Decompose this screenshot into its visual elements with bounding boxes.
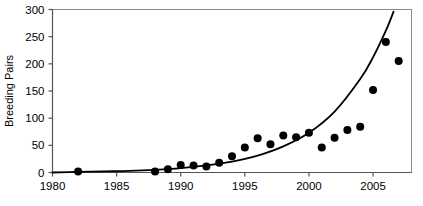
- y-axis-label: Breeding Pairs: [3, 54, 15, 127]
- data-point: [292, 133, 300, 141]
- data-point: [164, 165, 172, 173]
- chart-canvas: 198019851990199520002005 050100150200250…: [0, 0, 423, 206]
- scatter-points: [74, 38, 403, 175]
- data-point: [331, 134, 339, 142]
- data-point: [305, 129, 313, 137]
- fitted-curve: [53, 12, 394, 173]
- data-point: [266, 140, 274, 148]
- y-tick-label: 0: [38, 167, 44, 179]
- y-axis-tick-labels: 050100150200250300: [25, 4, 44, 179]
- data-point: [356, 123, 364, 131]
- y-tick-label: 200: [25, 58, 44, 70]
- x-tick-label: 1980: [40, 180, 66, 192]
- data-point: [202, 163, 210, 171]
- y-tick-label: 50: [32, 139, 45, 151]
- y-tick-label: 250: [25, 31, 44, 43]
- data-point: [190, 161, 198, 169]
- data-point: [177, 161, 185, 169]
- plot-frame: [53, 10, 412, 173]
- breeding-pairs-chart: 198019851990199520002005 050100150200250…: [0, 0, 423, 206]
- x-tick-label: 1995: [232, 180, 258, 192]
- data-point: [343, 126, 351, 134]
- y-tick-label: 150: [25, 85, 44, 97]
- data-point: [74, 167, 82, 175]
- x-tick-label: 1985: [104, 180, 130, 192]
- data-point: [318, 144, 326, 152]
- x-tick-label: 2000: [296, 180, 322, 192]
- y-tick-label: 100: [25, 112, 44, 124]
- data-point: [151, 167, 159, 175]
- data-point: [395, 57, 403, 65]
- trend-line: [53, 12, 394, 173]
- data-point: [254, 134, 262, 142]
- data-point: [228, 152, 236, 160]
- data-point: [279, 132, 287, 140]
- data-point: [241, 144, 249, 152]
- x-tick-label: 1990: [168, 180, 194, 192]
- x-axis-ticks: [53, 173, 374, 177]
- x-axis-tick-labels: 198019851990199520002005: [40, 180, 386, 192]
- x-tick-label: 2005: [360, 180, 386, 192]
- data-point: [215, 159, 223, 167]
- data-point: [369, 86, 377, 94]
- data-point: [382, 38, 390, 46]
- y-tick-label: 300: [25, 4, 44, 16]
